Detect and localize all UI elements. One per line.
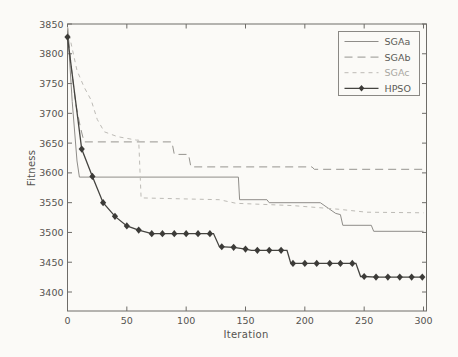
series-marker-HPSO bbox=[361, 273, 367, 280]
x-tick-label: 150 bbox=[236, 315, 254, 326]
series-marker-HPSO bbox=[219, 243, 225, 250]
series-marker-HPSO bbox=[159, 230, 165, 237]
series-marker-HPSO bbox=[302, 260, 308, 267]
legend-label-HPSO: HPSO bbox=[385, 83, 411, 94]
y-axis-label: Fitness bbox=[26, 150, 37, 187]
series-marker-HPSO bbox=[195, 230, 201, 237]
y-tick-label: 3750 bbox=[39, 78, 63, 89]
series-marker-HPSO bbox=[254, 247, 260, 254]
series-marker-HPSO bbox=[89, 173, 95, 180]
series-marker-HPSO bbox=[419, 274, 425, 281]
series-marker-HPSO bbox=[397, 274, 403, 281]
legend-label-SGAa: SGAa bbox=[385, 36, 411, 47]
x-tick-label: 250 bbox=[355, 315, 373, 326]
y-tick-label: 3500 bbox=[39, 227, 63, 238]
series-marker-HPSO bbox=[337, 260, 343, 267]
series-marker-HPSO bbox=[327, 260, 333, 267]
x-tick-label: 200 bbox=[296, 315, 314, 326]
x-tick-label: 300 bbox=[414, 315, 432, 326]
y-tick-label: 3650 bbox=[39, 138, 63, 149]
y-tick-label: 3700 bbox=[39, 108, 63, 119]
series-marker-HPSO bbox=[266, 247, 272, 254]
series-marker-HPSO bbox=[183, 230, 189, 237]
series-marker-HPSO bbox=[373, 274, 379, 281]
series-marker-HPSO bbox=[207, 230, 213, 237]
series-marker-HPSO bbox=[409, 274, 415, 281]
series-marker-HPSO bbox=[349, 260, 355, 267]
series-marker-HPSO bbox=[385, 274, 391, 281]
series-marker-HPSO bbox=[314, 260, 320, 267]
x-axis-label: Iteration bbox=[223, 329, 268, 340]
series-marker-HPSO bbox=[171, 230, 177, 237]
chart-plot-area: 0501001502002503003400345035003550360036… bbox=[0, 0, 458, 357]
y-tick-label: 3550 bbox=[39, 197, 63, 208]
series-marker-HPSO bbox=[290, 260, 296, 267]
series-marker-HPSO bbox=[278, 247, 284, 254]
x-tick-label: 50 bbox=[121, 315, 133, 326]
y-tick-label: 3800 bbox=[39, 48, 63, 59]
series-marker-HPSO bbox=[79, 145, 85, 152]
x-tick-label: 100 bbox=[177, 315, 195, 326]
series-marker-HPSO bbox=[242, 246, 248, 253]
x-tick-label: 0 bbox=[64, 315, 70, 326]
series-marker-HPSO bbox=[231, 244, 237, 251]
series-marker-HPSO bbox=[149, 230, 155, 237]
fitness-convergence-figure: 0501001502002503003400345035003550360036… bbox=[0, 0, 458, 357]
series-marker-HPSO bbox=[64, 34, 70, 41]
legend-label-SGAc: SGAc bbox=[385, 67, 410, 78]
y-tick-label: 3850 bbox=[39, 19, 63, 30]
y-tick-label: 3600 bbox=[39, 167, 63, 178]
legend-label-SGAb: SGAb bbox=[385, 52, 411, 63]
series-marker-HPSO bbox=[136, 226, 142, 233]
y-tick-label: 3450 bbox=[39, 257, 63, 268]
y-tick-label: 3400 bbox=[39, 287, 63, 298]
